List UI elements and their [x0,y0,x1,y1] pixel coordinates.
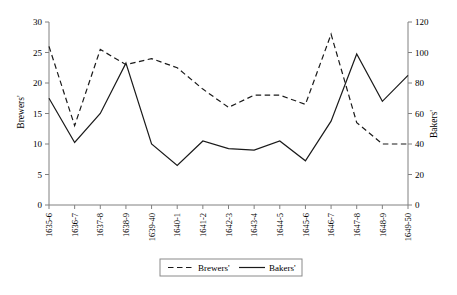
legend-label-brewers: Brewers' [198,263,230,273]
series-line-bakers [49,54,408,165]
chart-container: Brewers' Bakers' 051015202530 0204060801… [0,0,457,295]
x-axis-tick-label: 1635-6 [44,213,54,237]
x-axis-tick-label: 1644-5 [275,213,285,237]
x-axis-tick-label: 1638-9 [121,213,131,237]
y-axis-right-tick-label: 40 [415,139,425,149]
x-axis-tick-label: 1645-6 [301,213,311,237]
legend-label-bakers: Bakers' [269,263,296,273]
dual-axis-line-chart: Brewers' Bakers' 051015202530 0204060801… [0,0,457,295]
y-axis-right-tick-label: 20 [415,170,425,180]
y-axis-left-title: Brewers' [16,95,26,129]
y-axis-left-tick-label: 30 [33,17,43,27]
x-axis-tick-label: 1649-50 [403,213,413,241]
x-axis-ticks: 1635-61636-71637-81638-91639-401640-1164… [44,205,413,241]
x-axis-tick-label: 1639-40 [147,213,157,241]
y-axis-left-ticks: 051015202530 [33,17,49,210]
y-axis-left-tick-label: 20 [33,78,43,88]
y-axis-right-tick-label: 0 [415,200,420,210]
x-axis-tick-label: 1648-9 [378,213,388,237]
x-axis-tick-label: 1637-8 [95,213,105,237]
y-axis-left-tick-label: 10 [33,139,43,149]
y-axis-right-ticks: 020406080100120 [408,17,429,210]
x-axis-tick-label: 1641-2 [198,213,208,237]
x-axis-tick-label: 1643-4 [249,212,259,237]
y-axis-left-tick-label: 0 [38,200,43,210]
x-axis-tick-label: 1640-1 [172,213,182,237]
y-axis-left-tick-label: 5 [38,170,43,180]
chart-legend: Brewers'Bakers' [160,259,302,276]
series-line-brewers [49,34,408,144]
y-axis-right-tick-label: 100 [415,48,429,58]
y-axis-right-tick-label: 80 [415,78,425,88]
x-axis-tick-label: 1642-3 [224,213,234,237]
y-axis-right-tick-label: 60 [415,109,425,119]
y-axis-right-title: Bakers' [429,110,439,138]
y-axis-left-tick-label: 25 [33,48,43,58]
y-axis-right-tick-label: 120 [415,17,429,27]
x-axis-tick-label: 1646-7 [326,213,336,237]
x-axis-tick-label: 1647-8 [352,213,362,237]
y-axis-left-tick-label: 15 [33,109,43,119]
series-group [49,34,408,165]
x-axis-tick-label: 1636-7 [70,213,80,237]
